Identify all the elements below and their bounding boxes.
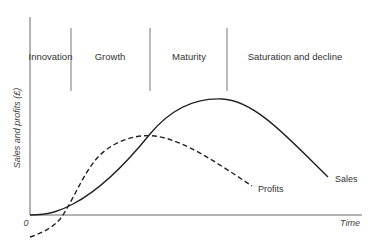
profits-curve — [30, 136, 252, 237]
origin-label: 0 — [23, 218, 28, 228]
stage-label-growth: Growth — [95, 51, 126, 62]
profits-series-label: Profits — [258, 184, 284, 194]
product-life-cycle-chart: Innovation Growth Maturity Saturation an… — [0, 0, 377, 248]
x-axis-label: Time — [340, 218, 360, 228]
stage-label-maturity: Maturity — [172, 51, 206, 62]
sales-curve — [30, 99, 328, 215]
stage-label-saturation: Saturation and decline — [248, 51, 343, 62]
sales-series-label: Sales — [335, 174, 358, 184]
y-axis-label: Sales and profits (£) — [12, 88, 22, 169]
stage-label-innovation: Innovation — [29, 51, 73, 62]
